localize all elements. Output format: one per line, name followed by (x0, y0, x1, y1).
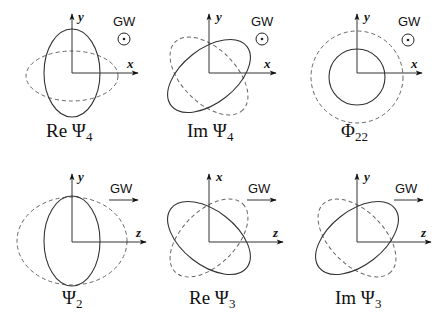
vertical-axis-label: y (362, 169, 370, 184)
out-of-page-icon (118, 33, 130, 45)
horizontal-axis-label: x (410, 56, 418, 71)
gw-label: GW (248, 181, 271, 196)
horizontal-axis-label: z (420, 225, 427, 240)
gw-label: GW (113, 14, 136, 29)
panel-re-psi4: y x GW Re Ψ4 (26, 9, 138, 144)
panel-caption: Φ22 (341, 120, 368, 144)
panel-re-psi3: x z GW Re Ψ3 (155, 169, 283, 311)
vertical-axis-label: y (76, 9, 84, 24)
panel-caption: Re Ψ4 (46, 120, 93, 144)
panel-phi22: y x GW Φ22 (311, 9, 422, 144)
panel-im-psi3: y z GW Im Ψ3 (303, 169, 431, 311)
horizontal-axis-label: z (272, 225, 279, 240)
gw-label: GW (251, 14, 274, 29)
vertical-axis-label: x (215, 169, 223, 184)
out-of-page-icon (256, 33, 268, 45)
vertical-axis-label: y (76, 169, 84, 184)
horizontal-axis-label: x (126, 56, 134, 71)
vertical-axis-label: y (214, 9, 222, 24)
out-of-page-icon (402, 34, 414, 46)
gw-polarization-diagram: y x GW Re Ψ4 y x GW Im Ψ4 y x GW (0, 0, 439, 313)
panel-im-psi4: y x GW Im Ψ4 (155, 9, 276, 144)
panel-caption: Im Ψ3 (335, 287, 381, 311)
vertical-axis-label: y (362, 9, 370, 24)
panel-caption: Re Ψ3 (189, 287, 235, 311)
horizontal-axis-label: x (263, 56, 271, 71)
gw-label: GW (110, 181, 133, 196)
panel-psi2: y z GW Ψ2 (17, 169, 146, 311)
panel-caption: Im Ψ4 (187, 120, 234, 144)
gw-label: GW (395, 181, 418, 196)
horizontal-axis-label: z (135, 225, 142, 240)
gw-label: GW (398, 14, 421, 29)
panel-caption: Ψ2 (62, 287, 83, 311)
